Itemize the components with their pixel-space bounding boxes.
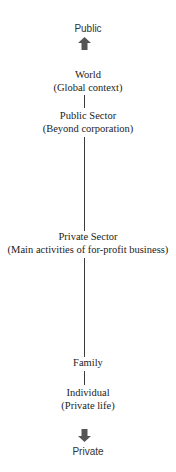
connector-line [84, 258, 85, 357]
node-private-sector-title: Private Sector [0, 231, 176, 244]
public-label: Public [0, 23, 176, 34]
connector-line [84, 371, 85, 385]
connector-line [84, 137, 85, 231]
node-family-title: Family [0, 357, 176, 370]
node-world-title: World [0, 69, 176, 82]
node-private-sector-subtitle: (Main activities of for-profit business) [0, 244, 176, 257]
arrow-up-icon [78, 37, 91, 50]
node-public-sector-title: Public Sector [0, 110, 176, 123]
node-family: Family [0, 357, 176, 370]
arrow-down-icon [78, 429, 91, 442]
node-private-sector: Private Sector (Main activities of for-p… [0, 231, 176, 256]
connector-line [84, 95, 85, 108]
node-individual-title: Individual [0, 387, 176, 400]
node-world: World (Global context) [0, 69, 176, 94]
node-world-subtitle: (Global context) [0, 82, 176, 95]
node-public-sector-subtitle: (Beyond corporation) [0, 123, 176, 136]
node-individual-subtitle: (Private life) [0, 400, 176, 413]
node-individual: Individual (Private life) [0, 387, 176, 412]
node-public-sector: Public Sector (Beyond corporation) [0, 110, 176, 135]
private-label: Private [0, 446, 176, 457]
